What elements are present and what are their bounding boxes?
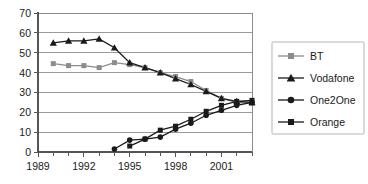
y-tick-label-70: 70 (19, 7, 31, 19)
data-point-marker (234, 99, 239, 104)
data-point-marker (51, 61, 56, 66)
y-tick-label-50: 50 (19, 47, 31, 59)
legend-label-bt: BT (310, 50, 324, 62)
data-point-marker (112, 60, 117, 65)
data-point-marker (250, 98, 255, 103)
data-point-marker (288, 119, 294, 125)
data-point-marker (219, 103, 224, 108)
data-point-marker (288, 53, 294, 59)
data-point-marker (143, 137, 148, 142)
data-point-marker (218, 95, 225, 101)
data-point-marker (157, 134, 163, 140)
x-tick-label-2001: 2001 (210, 160, 234, 172)
series-line-one2one (114, 102, 252, 149)
data-point-marker (97, 65, 102, 70)
data-point-marker (96, 35, 103, 41)
data-point-marker (219, 108, 225, 114)
data-point-marker (112, 146, 118, 152)
x-tick-label-1995: 1995 (118, 160, 142, 172)
y-tick-label-0: 0 (25, 146, 31, 158)
legend-label-vodafone: Vodafone (310, 72, 355, 84)
data-point-marker (111, 44, 118, 50)
chart-canvas: 01020304050607019891992199519982001BTVod… (0, 0, 368, 184)
y-tick-label-40: 40 (19, 67, 31, 79)
legend-label-one2one: One2One (310, 94, 356, 106)
x-tick-label-1992: 1992 (72, 160, 96, 172)
data-point-marker (127, 137, 133, 143)
y-tick-label-30: 30 (19, 86, 31, 98)
legend-label-orange: Orange (310, 116, 345, 128)
data-point-marker (173, 124, 178, 129)
data-point-marker (158, 128, 163, 133)
data-point-marker (288, 97, 295, 104)
data-point-marker (66, 63, 71, 68)
y-tick-label-10: 10 (19, 126, 31, 138)
y-tick-label-60: 60 (19, 27, 31, 39)
line-chart: 01020304050607019891992199519982001BTVod… (0, 0, 368, 184)
data-point-marker (204, 109, 209, 114)
data-point-marker (81, 63, 86, 68)
y-tick-label-20: 20 (19, 106, 31, 118)
x-tick-label-1989: 1989 (26, 160, 50, 172)
data-point-marker (127, 144, 132, 149)
data-point-marker (188, 117, 193, 122)
x-tick-label-1998: 1998 (164, 160, 188, 172)
